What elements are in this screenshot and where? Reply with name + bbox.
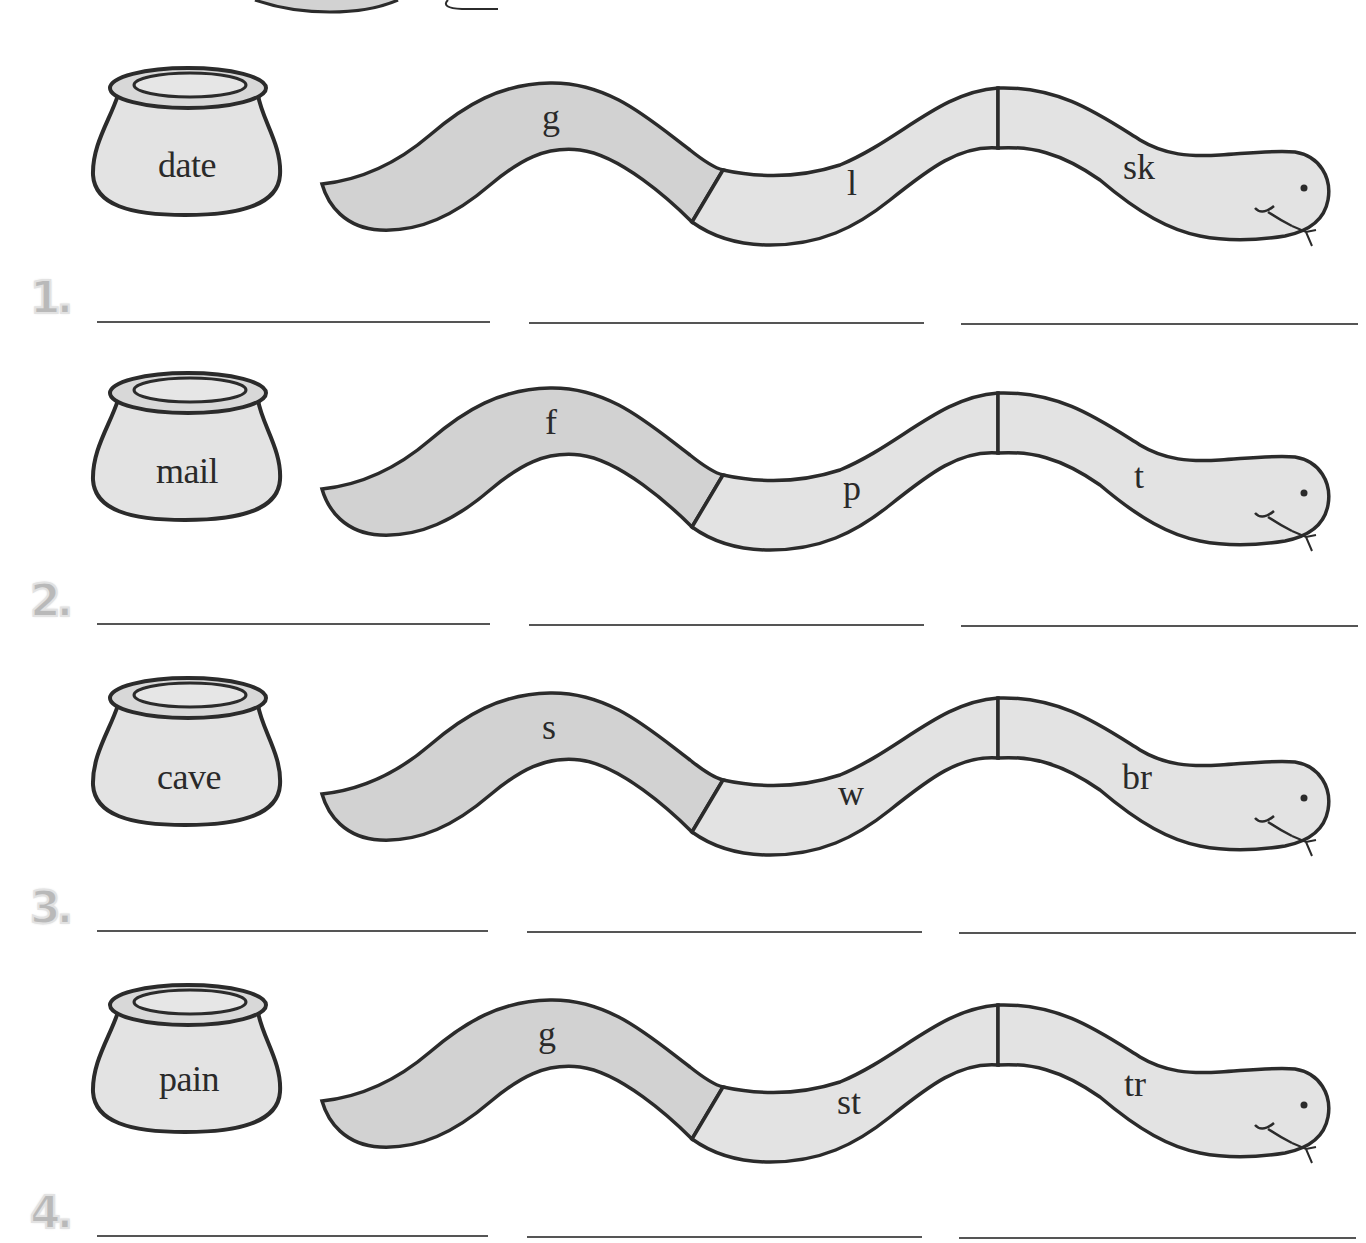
snake-segment-2-label: p: [843, 467, 861, 509]
pot-icon: [93, 373, 280, 520]
snake-segment-1-label: s: [542, 706, 556, 748]
snake-segment-2-label: l: [847, 162, 857, 204]
snake-eye-icon: [1301, 1102, 1308, 1109]
snake-eye-icon: [1301, 490, 1308, 497]
pot-word: cave: [94, 756, 284, 798]
snake-segment-1-label: g: [542, 96, 560, 138]
exercise-row-4: pain g st tr 4.: [0, 917, 1366, 1222]
snake-icon: [322, 388, 1329, 551]
exercise-row-2: mail f p t 2.: [0, 305, 1366, 610]
pot-word: pain: [94, 1058, 284, 1100]
snake-eye-icon: [1301, 185, 1308, 192]
row-art: [0, 917, 1366, 1187]
row-number: 4.: [30, 1187, 69, 1238]
answer-blank-3[interactable]: [959, 1237, 1356, 1239]
snake-segment-1-label: f: [545, 401, 557, 443]
snake-segment-1-label: g: [538, 1013, 556, 1055]
exercise-row-3: cave s w br 3.: [0, 610, 1366, 915]
row-art: [0, 610, 1366, 880]
snake-segment-3-label: t: [1134, 455, 1144, 497]
pot-word: mail: [92, 450, 282, 492]
snake-eye-icon: [1301, 795, 1308, 802]
snake-icon: [322, 83, 1329, 246]
snake-segment-3-label: br: [1122, 756, 1152, 798]
row-art: [0, 0, 1366, 270]
pot-icon: [93, 678, 280, 825]
answer-blank-1[interactable]: [97, 1235, 488, 1237]
snake-segment-3-label: tr: [1124, 1063, 1146, 1105]
snake-icon: [322, 693, 1329, 856]
pot-icon: [93, 68, 280, 215]
snake-segment-2-label: w: [838, 772, 864, 814]
snake-icon: [322, 1000, 1329, 1163]
snake-segment-3-label: sk: [1123, 146, 1155, 188]
pot-word: date: [92, 144, 282, 186]
snake-segment-2-label: st: [837, 1081, 861, 1123]
exercise-row-1: date g l sk 1.: [0, 0, 1366, 305]
row-art: [0, 305, 1366, 575]
answer-blank-2[interactable]: [527, 1236, 922, 1238]
